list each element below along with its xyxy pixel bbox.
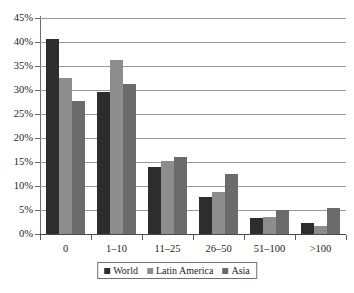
- bar: [161, 161, 174, 234]
- bar: [110, 60, 123, 234]
- x-axis-tick: [346, 235, 347, 240]
- legend-label: Asia: [231, 265, 249, 276]
- x-axis-labels: 01–1011–2526–5051–100>100: [40, 243, 346, 255]
- bar: [174, 157, 187, 234]
- x-axis-tick: [142, 235, 143, 240]
- y-axis-tick-label: 20%: [0, 132, 33, 143]
- legend-label: Latin America: [156, 265, 213, 276]
- y-axis-tick-label: 35%: [0, 60, 33, 71]
- y-axis-tick: [35, 66, 40, 67]
- bar-group: [193, 18, 244, 234]
- x-axis-label: 11–25: [142, 243, 193, 255]
- y-axis-tick-label: 25%: [0, 108, 33, 119]
- y-axis-tick-label: 0%: [0, 228, 33, 239]
- y-axis-tick: [35, 138, 40, 139]
- bar-chart: 45%40%35%30%25%20%15%10%5%0% 01–1011–252…: [0, 0, 354, 293]
- bar: [225, 174, 238, 234]
- bar: [301, 223, 314, 234]
- bar: [46, 39, 59, 234]
- y-axis-tick: [35, 90, 40, 91]
- legend-swatch-icon: [222, 268, 228, 274]
- bar-group: [295, 18, 346, 234]
- bar: [59, 78, 72, 234]
- bar: [123, 84, 136, 234]
- x-axis-tick: [193, 235, 194, 240]
- y-axis-tick-label: 30%: [0, 84, 33, 95]
- x-axis-tick: [40, 235, 41, 240]
- x-axis-tick: [295, 235, 296, 240]
- x-axis-label: 26–50: [193, 243, 244, 255]
- y-axis-tick: [35, 162, 40, 163]
- bar: [314, 226, 327, 234]
- y-axis-tick-label: 45%: [0, 12, 33, 23]
- y-axis-tick: [35, 186, 40, 187]
- bar: [148, 167, 161, 234]
- bar-groups: [40, 18, 346, 234]
- legend-swatch-icon: [104, 268, 110, 274]
- bar-group: [40, 18, 91, 234]
- legend-item: Asia: [222, 265, 249, 276]
- y-axis-tick-label: 15%: [0, 156, 33, 167]
- y-axis-tick-label: 40%: [0, 36, 33, 47]
- y-axis-tick: [35, 42, 40, 43]
- bar: [263, 217, 276, 234]
- bar-group: [244, 18, 295, 234]
- x-axis-label: 51–100: [244, 243, 295, 255]
- y-axis-tick: [35, 210, 40, 211]
- chart-legend: WorldLatin AmericaAsia: [97, 262, 257, 279]
- x-axis-tick: [244, 235, 245, 240]
- bar: [327, 208, 340, 234]
- bar-group: [91, 18, 142, 234]
- x-axis-label: >100: [295, 243, 346, 255]
- y-axis-tick-label: 5%: [0, 204, 33, 215]
- bar: [199, 197, 212, 234]
- y-axis-tick: [35, 18, 40, 19]
- x-axis-label: 0: [40, 243, 91, 255]
- legend-item: World: [104, 265, 138, 276]
- y-axis-tick-label: 10%: [0, 180, 33, 191]
- bar: [212, 192, 225, 234]
- bar: [97, 92, 110, 234]
- y-axis-tick: [35, 114, 40, 115]
- x-axis-label: 1–10: [91, 243, 142, 255]
- bar: [250, 218, 263, 234]
- bar: [276, 210, 289, 234]
- bar-group: [142, 18, 193, 234]
- legend-swatch-icon: [147, 268, 153, 274]
- legend-label: World: [113, 265, 138, 276]
- plot-area: [40, 18, 346, 234]
- x-axis-tick: [91, 235, 92, 240]
- bar: [72, 101, 85, 234]
- legend-item: Latin America: [147, 265, 213, 276]
